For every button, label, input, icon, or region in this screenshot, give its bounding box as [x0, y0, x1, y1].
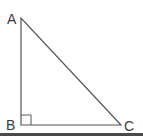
triangle-abc: [21, 18, 121, 125]
right-angle-marker: [21, 115, 31, 125]
triangle-svg: [0, 0, 143, 139]
vertex-label-c: C: [124, 119, 134, 133]
bottom-divider: [0, 133, 143, 136]
triangle-diagram: A B C: [0, 0, 143, 139]
vertex-label-a: A: [7, 12, 16, 26]
vertex-label-b: B: [6, 118, 15, 132]
